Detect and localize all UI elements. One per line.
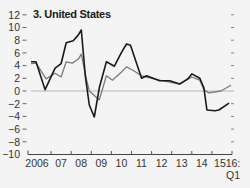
x-tick-label: 07 [55, 157, 67, 169]
x-tick-label: 13 [176, 157, 188, 169]
y-tick-label: −6 [8, 123, 20, 135]
y-tick-label: 12 [8, 9, 20, 21]
x-tick-label: 14 [196, 157, 208, 169]
x-tick-label: 16: [226, 157, 241, 169]
x-tick-label: 2006 [25, 157, 49, 169]
y-tick-label: 0 [14, 85, 20, 97]
y-tick-label: 10 [8, 21, 20, 33]
x-tick-label: 15 [214, 157, 226, 169]
line-chart: 121086420−2−4−6−8−10 2006070809101112131… [0, 0, 250, 188]
y-tick-label: 4 [14, 59, 20, 71]
x-tick-label: 11 [136, 157, 147, 169]
y-tick-label: −4 [8, 110, 20, 122]
y-tick-label: −10 [2, 148, 20, 160]
y-tick-label: −8 [8, 136, 20, 148]
y-tick-label: 6 [14, 47, 20, 59]
x-tick-label: 10 [116, 157, 128, 169]
x-tick-label: 12 [156, 157, 168, 169]
x-tick-label: 08 [75, 157, 87, 169]
chart-title: 3. United States [33, 8, 111, 20]
x-tick-sublabel: Q1 [226, 169, 240, 181]
y-tick-label: −2 [8, 98, 20, 110]
y-tick-label: 2 [14, 72, 20, 84]
x-tick-label: 09 [95, 157, 107, 169]
y-tick-label: 8 [14, 34, 20, 46]
